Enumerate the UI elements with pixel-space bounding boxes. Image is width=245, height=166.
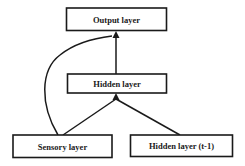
node-label: Output layer — [93, 15, 140, 25]
node-sensory-layer: Sensory layer — [13, 135, 112, 158]
node-output-layer: Output layer — [67, 8, 167, 31]
edge-sensory-to-hidden — [63, 99, 116, 135]
edge-hidden-prev-to-hidden — [116, 99, 180, 135]
node-label: Sensory layer — [38, 142, 88, 152]
diagram-canvas: Output layer Hidden layer Sensory layer … — [0, 0, 245, 166]
arrowhead-output-from-hidden — [113, 31, 120, 38]
node-hidden-layer-previous: Hidden layer (t-1) — [131, 135, 233, 157]
arrowhead-hidden-from-inputs — [113, 93, 120, 100]
node-label: Hidden layer — [93, 79, 141, 89]
node-hidden-layer: Hidden layer — [68, 74, 167, 93]
node-label: Hidden layer (t-1) — [149, 141, 214, 151]
